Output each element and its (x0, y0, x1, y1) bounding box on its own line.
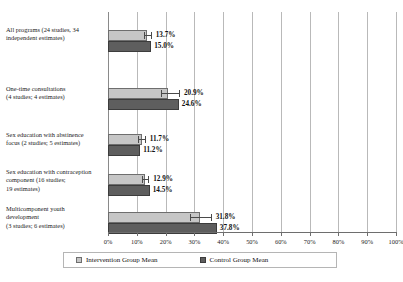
error-bar-intervention (161, 93, 180, 94)
plot-area: 13.7%15.0%20.9%24.6%11.7%11.2%12.9%14.5%… (108, 12, 396, 232)
bar-intervention (108, 30, 147, 41)
gridline (367, 12, 368, 232)
value-label-control: 11.2% (143, 145, 162, 155)
legend-label-intervention: Intervention Group Mean (86, 256, 158, 264)
bar-control (108, 185, 150, 196)
x-tick (367, 232, 368, 236)
bar-control (108, 99, 179, 110)
gridline (396, 12, 397, 232)
chart-legend: Intervention Group Mean Control Group Me… (63, 252, 337, 268)
bar-intervention (108, 134, 142, 145)
category-label: Sex education with contraceptioncomponen… (6, 168, 102, 193)
legend-swatch-intervention-icon (76, 257, 82, 263)
category-label: Multicomponent youthdevelopment(3 studie… (6, 205, 102, 230)
gridline (310, 12, 311, 232)
x-tick-label: 20% (160, 238, 172, 245)
gridline (223, 12, 224, 232)
x-tick-label: 0% (104, 238, 113, 245)
gridline (338, 12, 339, 232)
legend-label-control: Control Group Mean (210, 256, 269, 264)
x-tick-label: 40% (217, 238, 229, 245)
x-tick (166, 232, 167, 236)
error-bar-intervention (138, 139, 146, 140)
x-tick (108, 232, 109, 236)
x-tick (223, 232, 224, 236)
legend-swatch-control-icon (200, 257, 206, 263)
x-tick (252, 232, 253, 236)
x-tick (310, 232, 311, 236)
gridline (281, 12, 282, 232)
x-tick-label: 30% (189, 238, 201, 245)
bar-control (108, 41, 151, 52)
x-tick-label: 60% (275, 238, 287, 245)
x-tick (194, 232, 195, 236)
value-label-control: 14.5% (153, 185, 173, 195)
category-label: One-time consultations(4 studies; 4 esti… (6, 85, 102, 102)
bar-control (108, 145, 140, 156)
x-tick-label: 80% (333, 238, 345, 245)
value-label-intervention: 11.7% (150, 134, 169, 144)
error-bar-intervention (190, 217, 212, 218)
x-tick (281, 232, 282, 236)
value-label-intervention: 12.9% (153, 174, 173, 184)
bar-intervention (108, 174, 145, 185)
x-tick-label: 100% (389, 238, 403, 245)
gridline (252, 12, 253, 232)
value-label-control: 24.6% (182, 99, 202, 109)
x-tick-label: 90% (361, 238, 373, 245)
category-label: Sex education with abstinencefocus (2 st… (6, 131, 102, 148)
error-bar-intervention (144, 35, 152, 36)
x-tick-label: 50% (246, 238, 258, 245)
x-tick-label: 10% (131, 238, 143, 245)
x-tick (137, 232, 138, 236)
gridline (194, 12, 195, 232)
category-label: All programs (24 studies, 34independent … (6, 26, 102, 43)
x-tick (338, 232, 339, 236)
value-label-intervention: 20.9% (184, 88, 204, 98)
x-tick (396, 232, 397, 236)
x-tick-label: 70% (304, 238, 316, 245)
value-label-control: 15.0% (154, 41, 174, 51)
value-label-intervention: 31.8% (216, 212, 236, 222)
error-bar-intervention (142, 179, 149, 180)
bar-intervention (108, 88, 168, 99)
legend-item-intervention: Intervention Group Mean (76, 256, 158, 264)
legend-item-control: Control Group Mean (200, 256, 269, 264)
bar-intervention (108, 212, 200, 223)
value-label-intervention: 13.7% (156, 30, 176, 40)
